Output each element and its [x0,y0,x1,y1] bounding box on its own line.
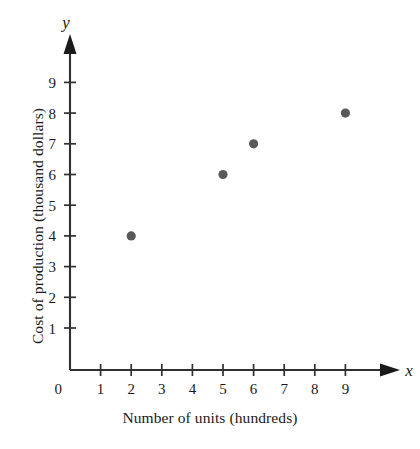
plot-canvas: 1 2 3 4 5 6 7 8 9 1 2 3 4 5 6 7 8 9 0 y … [0,0,420,449]
x-tick-label: 7 [280,381,288,397]
y-axis-title: Cost of production (thousand dollars) [25,31,51,421]
x-tick-label: 8 [311,381,319,397]
scatter-plot-figure: 1 2 3 4 5 6 7 8 9 1 2 3 4 5 6 7 8 9 0 y … [0,0,420,449]
data-point [127,231,136,240]
x-tick-label: 9 [342,381,350,397]
x-axis-variable-label: x [404,361,413,380]
y-axis-variable-label: y [60,13,70,32]
x-tick-label: 4 [189,381,197,397]
data-point [249,139,258,148]
y-axis-arrowhead-icon [64,34,77,54]
data-point [218,170,227,179]
x-tick-label: 6 [250,381,258,397]
x-tick-labels: 1 2 3 4 5 6 7 8 9 [97,381,349,397]
x-tick-label: 3 [158,381,166,397]
x-tick-label: 5 [219,381,227,397]
data-point [341,109,350,118]
x-axis-arrowhead-icon [380,364,400,377]
data-point-series [127,109,350,241]
x-tick-label: 2 [127,381,135,397]
origin-label: 0 [55,381,63,397]
x-axis-title: Number of units (hundreds) [0,409,420,427]
x-tick-label: 1 [97,381,105,397]
